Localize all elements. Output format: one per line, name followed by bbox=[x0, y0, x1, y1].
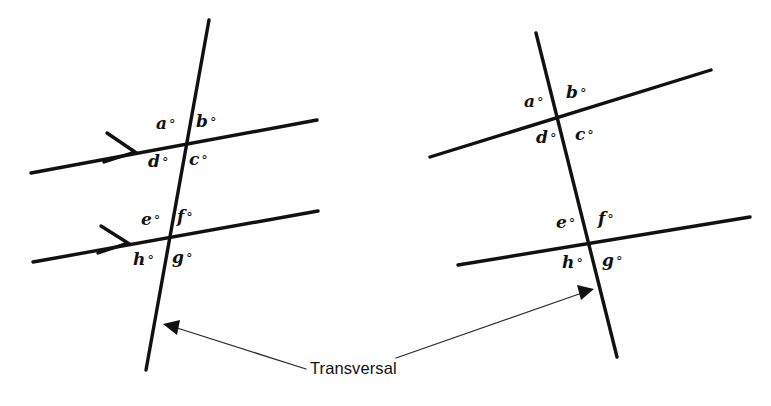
left-callout-leader-line bbox=[174, 327, 306, 369]
right-callout-leader-line bbox=[396, 293, 582, 358]
left-angle-label-c: c° bbox=[189, 149, 208, 169]
right-callout-arrowhead-icon bbox=[577, 285, 594, 300]
transversal-caption-label: Transversal bbox=[310, 359, 397, 378]
right-diagram: a° b° d° c° e° f° h° g° bbox=[430, 33, 750, 357]
left-angle-label-a: a° bbox=[156, 113, 176, 133]
right-angle-label-f: f° bbox=[597, 208, 614, 228]
right-angle-label-h: h° bbox=[562, 252, 583, 272]
left-angle-label-g: g° bbox=[172, 247, 192, 267]
left-callout-arrowhead-icon bbox=[163, 320, 180, 335]
right-angle-label-c: c° bbox=[575, 124, 594, 144]
left-transversal-line bbox=[146, 20, 209, 370]
diagram-canvas: a° b° d° c° e° f° h° g° bbox=[0, 0, 771, 406]
right-angle-label-b: b° bbox=[566, 82, 586, 102]
right-angle-label-a: a° bbox=[524, 91, 544, 111]
right-angle-label-g: g° bbox=[602, 250, 622, 270]
left-angle-label-b: b° bbox=[196, 111, 216, 131]
left-angle-label-e: e° bbox=[141, 209, 160, 229]
right-angle-label-e: e° bbox=[556, 212, 575, 232]
left-angle-label-f: f° bbox=[176, 206, 193, 226]
right-angle-label-d: d° bbox=[536, 127, 556, 147]
transversal-callout-leaders bbox=[163, 285, 594, 369]
geometry-figure: a° b° d° c° e° f° h° g° bbox=[0, 0, 771, 406]
left-angle-label-d: d° bbox=[148, 151, 168, 171]
left-angle-label-h: h° bbox=[133, 249, 154, 269]
left-diagram: a° b° d° c° e° f° h° g° bbox=[31, 20, 318, 370]
